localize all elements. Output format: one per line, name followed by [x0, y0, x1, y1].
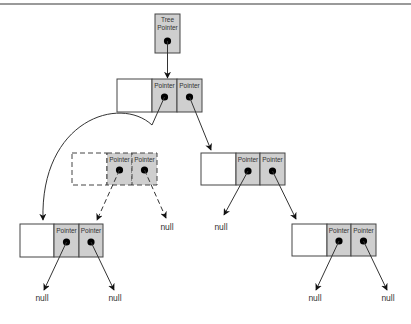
pointer-label: Pointer [329, 227, 350, 234]
pointer-label: Pointer [56, 227, 77, 234]
tree-pointer-label-2: Pointer [157, 24, 178, 31]
null-label: null [308, 293, 321, 303]
pointer-label: Pointer [238, 156, 259, 163]
pointer-label: Pointer [154, 82, 175, 89]
null-label: null [108, 293, 121, 303]
null-label: null [160, 222, 173, 232]
null-label: null [35, 293, 48, 303]
pointer-label: Pointer [179, 82, 200, 89]
tree-pointer-label-1: Tree [161, 16, 175, 23]
pointer-label: Pointer [262, 156, 283, 163]
pointer-label: Pointer [134, 156, 155, 163]
null-label: null [214, 222, 227, 232]
pointer-label: Pointer [81, 227, 102, 234]
pointer-label: Pointer [353, 227, 374, 234]
tree-diagram: Tree Pointer Pointer Pointer Pointer Poi… [0, 0, 411, 324]
null-label: null [381, 293, 394, 303]
pointer-label: Pointer [109, 156, 130, 163]
